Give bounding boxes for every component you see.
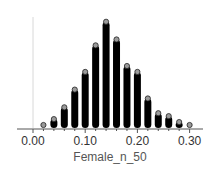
dot-marker — [177, 119, 182, 124]
dot-column — [103, 22, 110, 128]
dot-column — [123, 66, 130, 128]
dot-marker — [135, 69, 140, 74]
x-tick-label: 0.20 — [126, 134, 149, 148]
dot-marker — [156, 111, 161, 116]
dot-marker — [62, 105, 67, 110]
dot-marker — [93, 43, 98, 48]
dot-marker — [72, 87, 77, 92]
x-axis-ticks — [33, 129, 190, 133]
x-tick-label: 0.10 — [74, 134, 97, 148]
dot-marker — [103, 19, 108, 24]
dot-column — [134, 72, 141, 128]
dot-marker — [187, 122, 192, 127]
dot-column — [113, 39, 120, 128]
x-tick-label: 0.00 — [21, 134, 44, 148]
dot-marker — [51, 117, 56, 122]
dot-marker — [41, 122, 46, 127]
x-axis-label: Female_n_50 — [73, 150, 146, 164]
dot-columns — [41, 19, 192, 128]
x-tick-label: 0.30 — [178, 134, 201, 148]
dot-marker — [145, 96, 150, 101]
dot-marker — [124, 63, 129, 68]
dot-marker — [83, 69, 88, 74]
dot-marker — [166, 114, 171, 119]
dot-column — [92, 45, 99, 128]
dot-column — [71, 90, 78, 128]
dot-column — [144, 98, 151, 128]
dot-column — [61, 107, 68, 128]
dot-column — [82, 72, 89, 128]
dot-marker — [114, 37, 119, 42]
